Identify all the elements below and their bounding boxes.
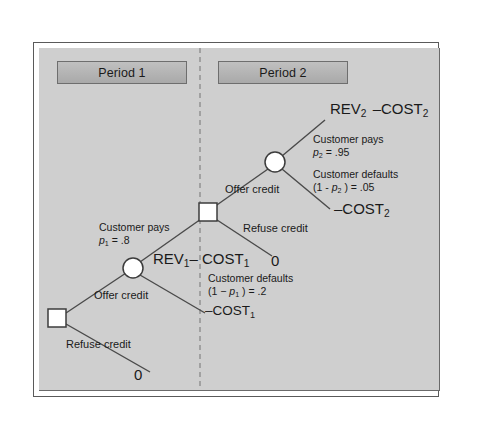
payoff-negative-cost2: –COST2 — [334, 200, 390, 218]
branch-label-root-offer-credit: Offer credit — [94, 289, 148, 302]
probability-p2-pays-line1: Customer pays — [313, 133, 384, 146]
probability-p2-defaults-line2: (1 - p2 ) = .05 — [313, 181, 398, 194]
payoff-cost2-text: –COST — [373, 100, 423, 117]
branch-label-root-refuse-credit: Refuse credit — [66, 338, 131, 351]
payoff-zero-root-refuse: 0 — [134, 366, 142, 384]
probability-p2-pays-value: = .95 — [323, 146, 350, 158]
probability-p2-defaults-line1: Customer defaults — [313, 168, 398, 181]
branch-label-p2-offer-credit-text: Offer credit — [225, 183, 279, 195]
node-root-decision-square — [48, 309, 66, 327]
node-period2-chance-circle — [265, 152, 285, 172]
payoff-negative-cost2-text: –COST — [334, 200, 384, 217]
branch-label-p2-refuse-credit: Refuse credit — [243, 222, 308, 235]
payoff-rev2-text: REV — [330, 100, 361, 117]
branch-label-p2-refuse-credit-text: Refuse credit — [243, 222, 308, 234]
node-period1-chance-circle — [123, 258, 143, 278]
payoff-negative-cost1-text: –COST — [205, 303, 250, 318]
node-period2-decision-square — [199, 203, 217, 221]
probability-p1-defaults-line1: Customer defaults — [208, 272, 293, 285]
probability-p1-pays-var: p — [99, 234, 105, 246]
payoff-rev1-minus-cost1: REV1– COST1 — [153, 250, 249, 268]
period-1-header: Period 1 — [57, 61, 187, 84]
probability-p1-defaults-prefix: (1 − — [208, 285, 229, 297]
branch-label-root-offer-credit-text: Offer credit — [94, 289, 148, 301]
probability-p2-defaults-subscript: 2 — [338, 187, 342, 195]
probability-p1-pays-line1: Customer pays — [99, 221, 170, 234]
probability-p1-defaults-value: ) = .2 — [239, 285, 266, 297]
probability-p1-pays-subscript: 1 — [105, 240, 109, 248]
period-2-header: Period 2 — [218, 61, 348, 84]
payoff-negative-cost1-subscript: 1 — [250, 310, 255, 320]
payoff-negative-cost2-subscript: 2 — [384, 208, 390, 219]
probability-p1-pays-value: = .8 — [109, 234, 130, 246]
payoff-rev2-subscript: 2 — [361, 108, 367, 119]
probability-p2-pays: Customer pays p2 = .95 — [313, 133, 384, 159]
payoff-rev2-minus-cost2: REV2 –COST2 — [330, 100, 428, 118]
probability-p2-defaults-var: p — [332, 181, 338, 193]
payoff-rev1-text: REV — [153, 250, 184, 267]
payoff-zero-p2-refuse: 0 — [271, 252, 279, 270]
probability-p2-defaults-value: ) = .05 — [341, 181, 374, 193]
period-1-header-label: Period 1 — [98, 66, 145, 80]
probability-p2-defaults-prefix: (1 - — [313, 181, 332, 193]
probability-p2-pays-line2: p2 = .95 — [313, 146, 384, 159]
probability-p1-defaults: Customer defaults (1 − p1 ) = .2 — [208, 272, 293, 298]
payoff-zero-root-refuse-text: 0 — [134, 366, 142, 383]
probability-p1-pays-line2: p1 = .8 — [99, 234, 170, 247]
edge-p1-defaults — [140, 275, 205, 313]
probability-p2-pays-subscript: 2 — [319, 152, 323, 160]
payoff-cost1-subscript: 1 — [244, 258, 250, 269]
period-2-header-label: Period 2 — [259, 66, 306, 80]
probability-p2-pays-var: p — [313, 146, 319, 158]
payoff-cost2-subscript: 2 — [423, 108, 429, 119]
probability-p1-defaults-subscript: 1 — [235, 291, 239, 299]
payoff-cost1-text: – COST — [190, 250, 244, 267]
probability-p1-pays: Customer pays p1 = .8 — [99, 221, 170, 247]
branch-label-root-refuse-credit-text: Refuse credit — [66, 338, 131, 350]
probability-p1-defaults-line2: (1 − p1 ) = .2 — [208, 285, 293, 298]
figure-canvas: Period 1 Period 2 REV2 –COST2 Customer p… — [0, 0, 486, 447]
payoff-zero-p2-refuse-text: 0 — [271, 252, 279, 269]
payoff-rev1-subscript: 1 — [184, 258, 190, 269]
probability-p2-defaults: Customer defaults (1 - p2 ) = .05 — [313, 168, 398, 194]
payoff-negative-cost1: –COST1 — [205, 303, 255, 319]
branch-label-p2-offer-credit: Offer credit — [225, 183, 279, 196]
